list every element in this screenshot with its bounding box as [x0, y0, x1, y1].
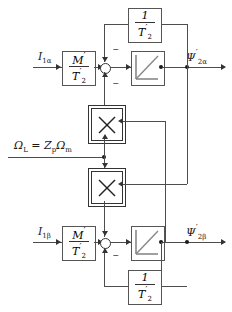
feedback-alpha-fraction: 1 T′2 [135, 10, 155, 41]
gain-m-over-t2-alpha[interactable]: M′ T′2 [62, 51, 96, 86]
wire-beta-fb-to-block [161, 286, 187, 287]
label-beta-current: I1β [38, 225, 51, 240]
wire-beta-fb-block-out [104, 286, 128, 287]
wire-alpha-flux-cross-left [122, 184, 187, 185]
arrowhead-beta-gain-in [56, 239, 61, 245]
label-alpha-flux-output: Ψ′2α [186, 48, 207, 66]
arrowhead-alpha-sum-top-in [102, 57, 108, 62]
wire-alpha-fb-up [187, 24, 188, 67]
wire-alpha-fb-block-out [104, 24, 128, 25]
wire-beta-flux-cross-up [165, 121, 166, 242]
gain-one-over-t2-alpha[interactable]: 1 T′2 [128, 8, 162, 43]
wire-alpha-fb-to-block [160, 24, 187, 25]
tap-alpha-output [159, 65, 163, 69]
feedback-beta-fraction: 1 T′2 [135, 272, 155, 303]
multiplier-bottom[interactable] [88, 168, 126, 207]
arrowhead-beta-sum-top-in [102, 231, 108, 236]
gain-one-over-t2-beta[interactable]: 1 T′2 [128, 270, 162, 305]
gain-alpha-fraction: M′ T′2 [69, 52, 89, 86]
arrowhead-multop-speed-in [102, 134, 108, 139]
multiply-icon [97, 115, 117, 135]
arrowhead-multbot-flux-in [118, 181, 123, 187]
integrator-alpha-ramp-icon [132, 52, 162, 83]
arrowhead-multbot-speed-in [102, 163, 108, 168]
arrowhead-multtop-flux-in [118, 118, 123, 124]
wire-alpha-flux-cross-down [187, 67, 188, 184]
wire-beta-fb-up-to-sum [104, 248, 105, 286]
multiply-icon [97, 178, 117, 198]
label-alpha-current: I1α [38, 50, 52, 65]
arrowhead-alpha-gain-in [56, 64, 61, 70]
sign-alpha-sum-top: − [113, 44, 119, 55]
arrowhead-beta-sum-bottom-in [102, 248, 108, 253]
arrowhead-alpha-sum-bottom-in [102, 72, 108, 77]
gain-beta-fraction: M′ T′2 [69, 227, 89, 261]
integrator-beta-ramp-icon [132, 227, 162, 258]
label-speed-equation: ΩL = ZpΩm [14, 139, 72, 154]
wire-alpha-output [163, 67, 225, 68]
wire-speed-input [8, 157, 104, 158]
multiplier-bottom-inner [91, 171, 123, 204]
sign-beta-sum-bottom: − [113, 250, 119, 261]
sign-alpha-sum-bottom: − [113, 78, 119, 89]
wire-beta-output [163, 242, 225, 243]
gain-m-over-t2-beta[interactable]: M′ T′2 [62, 226, 96, 261]
arrowhead-beta-output [221, 239, 226, 245]
arrowhead-alpha-output [221, 64, 226, 70]
wire-beta-flux-cross-left [122, 121, 165, 122]
block-diagram-canvas: I1α M′ T′2 − − Ψ′2α 1 T′2 [0, 0, 232, 312]
label-beta-flux-output: Ψ′2β [186, 223, 206, 241]
